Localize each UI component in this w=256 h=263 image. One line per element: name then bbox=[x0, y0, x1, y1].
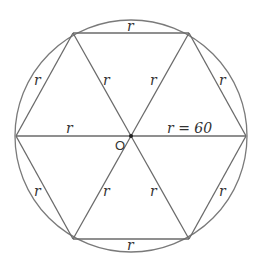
label-right-radius-value: r = 60 bbox=[167, 120, 212, 136]
label-lower-left-side: r bbox=[34, 183, 42, 199]
center-point bbox=[129, 134, 133, 138]
label-upper-left-radius: r bbox=[103, 72, 111, 88]
label-upper-right-side: r bbox=[219, 72, 227, 88]
label-upper-right-radius: r bbox=[150, 72, 158, 88]
hexagon-side-lower-right bbox=[189, 136, 246, 239]
label-lower-right-radius: r bbox=[150, 183, 158, 199]
hexagon-circle-diagram: O r r r r r r r r r r r r = 60 bbox=[0, 0, 256, 263]
hexagon-side-upper-left bbox=[16, 33, 73, 136]
center-label: O bbox=[115, 138, 125, 153]
hexagon-side-lower-left bbox=[16, 136, 73, 239]
label-lower-left-radius: r bbox=[103, 183, 111, 199]
label-lower-right-side: r bbox=[219, 183, 227, 199]
label-upper-left-side: r bbox=[34, 72, 42, 88]
label-left-radius: r bbox=[66, 120, 74, 136]
